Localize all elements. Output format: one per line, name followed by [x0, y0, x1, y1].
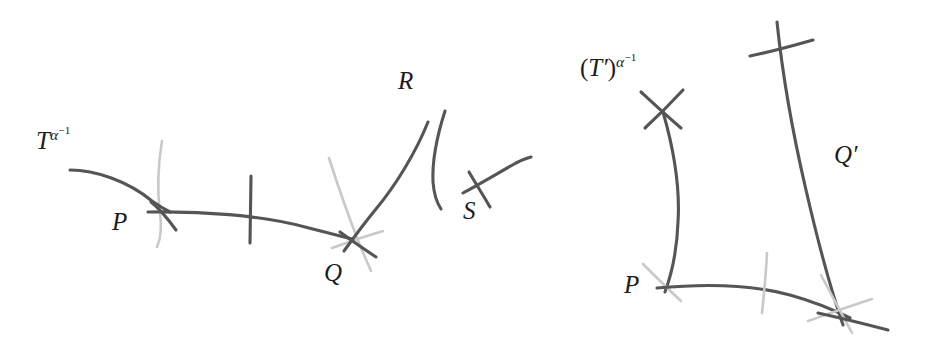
label-point-p-left: P — [112, 209, 127, 234]
label-Tprime-close-paren: ) — [608, 54, 616, 81]
right-arc-T-prime-alpha-inverse — [663, 112, 678, 292]
label-T-prime-alpha-inverse: (T′)α−1 — [580, 52, 637, 80]
left-curve-q-to-r — [344, 122, 428, 251]
label-Tprime-exponent: α−1 — [616, 53, 637, 70]
label-T-base: T — [36, 127, 50, 154]
label-point-q-left: Q — [324, 260, 342, 285]
left-light-diagonal-through-q — [329, 158, 371, 271]
left-arc-right-of-s — [463, 157, 531, 193]
label-T-alpha-inverse: Tα−1 — [36, 125, 71, 153]
label-T-exponent-sup: −1 — [58, 124, 70, 136]
label-point-p-right: P — [624, 272, 639, 297]
label-point-r-left: R — [398, 68, 413, 93]
right-light-tick-mid-arc — [762, 253, 767, 313]
label-T-exponent: α−1 — [50, 126, 71, 143]
right-line-q-prime — [777, 22, 843, 325]
right-star-dark-stroke — [818, 313, 888, 330]
label-Tprime-exponent-sup: −1 — [624, 51, 636, 63]
label-T-exponent-base: α — [50, 126, 58, 143]
right-cross-stroke-b — [645, 90, 683, 128]
label-Tprime-base: T — [588, 54, 602, 81]
left-light-curve-through-p — [157, 141, 162, 247]
diagram-canvas — [0, 0, 938, 344]
label-point-s-left: S — [463, 198, 476, 223]
right-light-tick-at-p — [643, 264, 681, 301]
right-star-light-stroke-a — [821, 275, 852, 333]
label-point-q-prime-right: Q′ — [834, 142, 858, 167]
left-curve-r-to-s — [433, 111, 445, 209]
left-tick-mid-arc — [250, 176, 251, 243]
left-tick-at-p — [151, 202, 176, 230]
figure-root: Tα−1 P Q R S (T′)α−1 P Q′ — [0, 0, 938, 344]
